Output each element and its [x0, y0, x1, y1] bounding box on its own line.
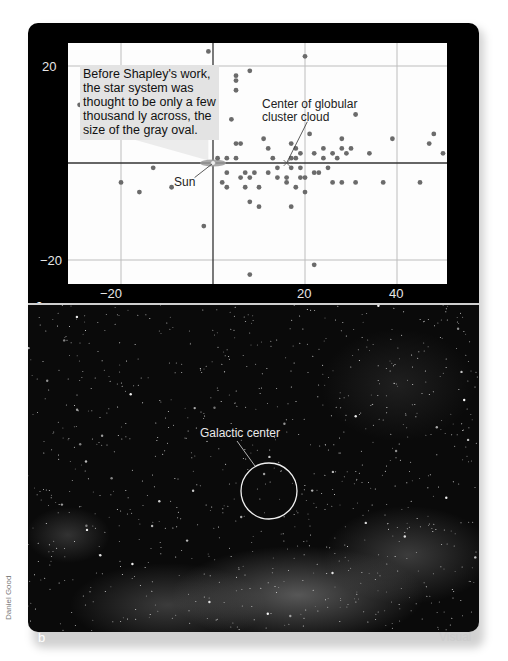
- visual-band-label: Visual: [439, 630, 471, 644]
- panel-b-photo: [28, 305, 479, 632]
- y-tick-20: 20: [42, 59, 56, 74]
- shapley-callout: Before Shapley's work, the star system w…: [80, 65, 219, 140]
- x-tick-40: 40: [389, 286, 403, 301]
- milky-way-starfield: [28, 305, 479, 632]
- y-tick-neg20: −20: [40, 253, 62, 268]
- cluster-center-label-line2: cluster cloud: [262, 111, 357, 124]
- sun-label: Sun: [174, 176, 195, 189]
- x-tick-20: 20: [297, 286, 311, 301]
- cluster-center-label: Center of globular cluster cloud: [262, 98, 357, 124]
- x-tick-neg20: −20: [100, 286, 122, 301]
- panel-b-label: b: [38, 630, 45, 645]
- galactic-center-label: Galactic center: [200, 426, 280, 440]
- photo-credit: Daniel Good: [4, 576, 13, 620]
